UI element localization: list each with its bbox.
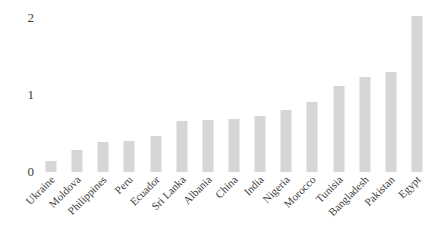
y-tick-label-2: 2: [0, 11, 34, 24]
bar-slot: [352, 10, 378, 172]
y-tick-label-1: 1: [0, 88, 34, 101]
x-tick: Pakistan: [378, 172, 404, 233]
bar-chart: 2 1 0 UkraineMoldovaPhilippinesPeruEcuad…: [0, 0, 438, 233]
bar-slot: [169, 10, 195, 172]
bar-slot: [273, 10, 299, 172]
bar-slot: [299, 10, 325, 172]
plot-area: [38, 10, 430, 172]
bar[interactable]: [281, 110, 292, 172]
bar-slot: [64, 10, 90, 172]
x-tick: Egypt: [404, 172, 430, 233]
bar-slot: [143, 10, 169, 172]
x-axis: UkraineMoldovaPhilippinesPeruEcuadorSri …: [38, 172, 430, 233]
bar-slot: [247, 10, 273, 172]
bar-slot: [221, 10, 247, 172]
x-tick: China: [221, 172, 247, 233]
y-tick-label-0: 0: [0, 165, 34, 178]
bar-slot: [38, 10, 64, 172]
x-tick: Albania: [195, 172, 221, 233]
x-tick: Philippines: [90, 172, 116, 233]
bar-slot: [404, 10, 430, 172]
